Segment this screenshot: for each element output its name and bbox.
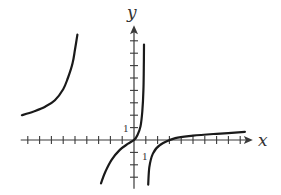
x-axis-label: x [258,130,268,150]
axes [21,25,253,188]
curve-left-branch [22,35,78,116]
x-tick-label-1: 1 [142,150,148,162]
y-tick-label-1: 1 [123,122,129,134]
y-axis-label: y [126,2,137,22]
chart: x y 1 1 [0,0,281,195]
